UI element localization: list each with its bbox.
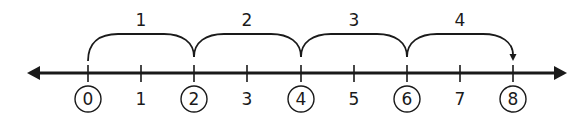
- right-arrow-icon: [554, 66, 567, 80]
- number-label-2: 2: [189, 89, 200, 109]
- jump-label-2: 2: [242, 10, 253, 30]
- number-label-7: 7: [455, 89, 466, 109]
- jump-arc-1: [88, 34, 194, 61]
- number-line-diagram: 1 2 3 4 0 1 2 3 4 5 6 7 8: [0, 0, 583, 121]
- number-label-4: 4: [296, 89, 307, 109]
- number-label-6: 6: [402, 89, 413, 109]
- number-label-0: 0: [83, 89, 94, 109]
- number-label-5: 5: [349, 89, 360, 109]
- jump-label-3: 3: [349, 10, 360, 30]
- left-arrow-icon: [27, 66, 40, 80]
- jump-arc-3: [301, 34, 407, 57]
- jump-label-1: 1: [136, 10, 147, 30]
- number-label-1: 1: [136, 89, 147, 109]
- jump-arc-4: [407, 34, 513, 57]
- jump-arc-2: [194, 34, 301, 57]
- jump-arcs: [88, 34, 513, 61]
- jump-label-4: 4: [455, 10, 466, 30]
- number-label-8: 8: [508, 89, 519, 109]
- jump-arrowhead-icon: [510, 54, 517, 61]
- number-label-3: 3: [242, 89, 253, 109]
